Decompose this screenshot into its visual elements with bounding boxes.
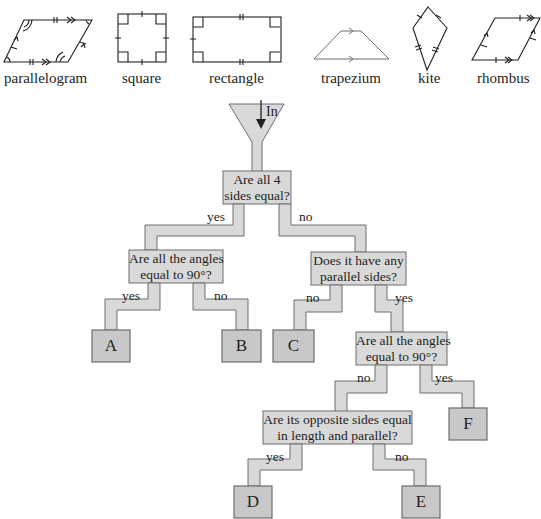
branch-q2-no: no [214,288,228,304]
trapezium-icon [314,28,389,62]
shape-label-rectangle: rectangle [209,70,264,87]
shape-label-kite: kite [418,70,441,87]
rhombus-icon [472,15,540,63]
outcome-F: F [449,414,487,434]
branch-q5-yes: yes [266,449,284,465]
shape-label-square: square [122,70,161,87]
kite-icon [413,7,447,70]
outcome-B: B [222,336,261,356]
branch-q4-yes: yes [435,370,453,386]
branch-q5-no: no [395,449,409,465]
outcome-D: D [234,492,272,512]
shape-label-parallelogram: parallelogram [4,70,87,87]
question-q1-line1: Are all 4 [223,172,291,188]
input-label: In [266,104,278,120]
rectangle-icon [190,14,281,65]
outcome-A: A [92,336,130,356]
outcome-C: C [273,336,314,356]
outcome-E: E [402,492,440,512]
question-q2-line2: equal to 90°? [129,267,223,283]
question-q4-line2: equal to 90°? [356,349,447,365]
question-q5: Are its opposite sides equal in length a… [263,412,412,444]
branch-q1-no: no [299,209,313,225]
question-q2-line1: Are all the angles [129,251,223,267]
branch-q4-no: no [357,370,371,386]
branch-q2-yes: yes [122,288,140,304]
question-q4: Are all the angles equal to 90°? [356,333,447,365]
question-q3: Does it have any parallel sides? [311,253,406,285]
question-q5-line1: Are its opposite sides equal [263,412,412,428]
question-q5-line2: in length and parallel? [263,428,412,444]
question-q3-line2: parallel sides? [311,269,406,285]
question-q2: Are all the angles equal to 90°? [129,251,223,283]
branch-q3-no: no [306,290,320,306]
parallelogram-icon [4,17,92,65]
shape-label-rhombus: rhombus [477,70,530,87]
question-q1: Are all 4 sides equal? [223,172,291,204]
question-q1-line2: sides equal? [223,188,291,204]
branch-q1-yes: yes [207,209,225,225]
question-q4-line1: Are all the angles [356,333,447,349]
question-q3-line1: Does it have any [311,253,406,269]
square-icon [115,11,169,65]
branch-q3-yes: yes [395,290,413,306]
shape-label-trapezium: trapezium [321,70,381,87]
